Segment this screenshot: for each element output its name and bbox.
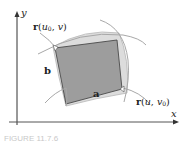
figure-caption: FIGURE 11.7.6 xyxy=(4,134,58,143)
diagram-canvas xyxy=(0,0,183,143)
vector-b-label: b xyxy=(44,66,51,76)
y-axis-arrowhead xyxy=(15,11,20,17)
y-axis-label: y xyxy=(21,8,27,18)
curve-label-r-u0-v: r(u0, v) xyxy=(33,22,67,32)
curve-label-r-u-v0: r(u, v0) xyxy=(136,97,170,107)
x-axis-arrowhead xyxy=(173,120,179,125)
vector-a-label: a xyxy=(93,89,99,99)
x-axis-label: x xyxy=(171,109,177,119)
surface-area-diagram: y x b a r(u0, v) r(u, v0) FIGURE 11.7.6 xyxy=(0,0,183,143)
